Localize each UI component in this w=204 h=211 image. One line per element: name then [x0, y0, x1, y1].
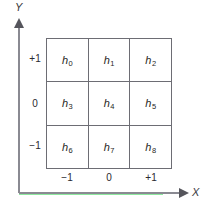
grid-cell: h6	[47, 126, 89, 169]
x-tick-label-minus1: −1	[52, 172, 82, 183]
x-tick-label-zero: 0	[94, 172, 124, 183]
grid-cell: h1	[89, 39, 131, 82]
x-axis-arrow-icon	[179, 188, 189, 198]
grid-cell: h4	[89, 82, 131, 125]
coefficient-grid: h0 h1 h2 h3 h4 h5 h6 h7 h8	[46, 38, 172, 169]
grid-cell: h0	[47, 39, 89, 82]
cell-label-h5: h5	[145, 97, 156, 109]
cell-label-h2: h2	[145, 54, 156, 66]
cell-label-h0: h0	[62, 54, 73, 66]
y-tick-label-plus1: +1	[24, 53, 46, 64]
y-axis-line	[18, 26, 20, 193]
y-axis-label: Y	[15, 1, 22, 13]
grid-cell: h3	[47, 82, 89, 125]
cell-label-h7: h7	[104, 141, 115, 153]
y-tick-label-zero: 0	[24, 98, 46, 109]
y-axis-arrow-icon	[14, 18, 24, 28]
grid-cell: h8	[130, 126, 172, 169]
cell-label-h1: h1	[104, 54, 115, 66]
cell-label-h4: h4	[104, 97, 115, 109]
cell-label-h8: h8	[145, 141, 156, 153]
x-axis-highlight-line	[19, 194, 163, 195]
y-tick-label-minus1: −1	[24, 140, 46, 151]
grid-cell: h7	[89, 126, 131, 169]
cell-label-h3: h3	[62, 97, 73, 109]
grid-cell: h5	[130, 82, 172, 125]
cell-label-h6: h6	[62, 141, 73, 153]
kernel-grid-figure: Y X +1 0 −1 −1 0 +1 h0 h1 h2 h3 h4 h5 h6…	[0, 0, 204, 211]
x-tick-label-plus1: +1	[136, 172, 166, 183]
grid-cell: h2	[130, 39, 172, 82]
x-axis-label: X	[192, 186, 199, 198]
